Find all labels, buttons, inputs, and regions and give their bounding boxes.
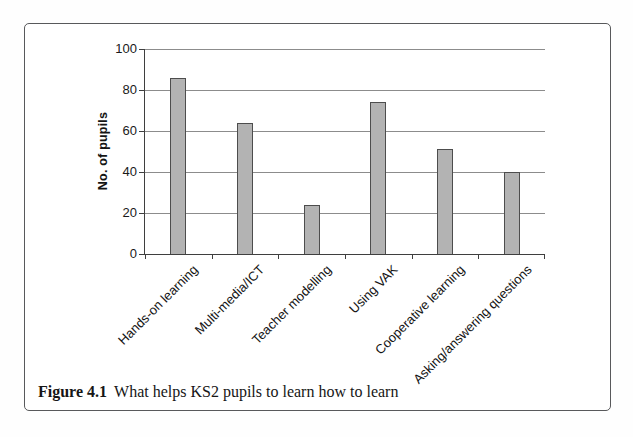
x-axis-tick-mark-4: [412, 255, 413, 259]
plot-area: No. of pupils 020406080100Hands-on learn…: [144, 49, 545, 255]
category-label-multi-media-ict: Multi-media/ICT: [192, 262, 267, 337]
gridline-y-20: [145, 213, 545, 214]
figure-caption-text: What helps KS2 pupils to learn how to le…: [114, 383, 398, 400]
bar-multi-media-ict: [237, 123, 253, 254]
x-axis-tick-mark-1: [212, 255, 213, 259]
gridline-y-40: [145, 172, 545, 173]
bar-using-vak: [370, 102, 386, 254]
y-axis-tick-mark-20: [139, 213, 144, 214]
y-axis-tick-mark-100: [139, 49, 144, 50]
page: No. of pupils 020406080100Hands-on learn…: [0, 0, 633, 437]
category-label-using-vak: Using VAK: [347, 262, 401, 316]
x-axis-tick-mark-0: [145, 255, 146, 259]
gridline-y-100: [145, 49, 545, 50]
x-axis-tick-mark-6: [544, 255, 545, 259]
category-label-hands-on-learning: Hands-on learning: [115, 262, 201, 348]
category-label-asking-answering-questions: Asking/answering questions: [410, 262, 535, 387]
y-axis-tick-label-80: 80: [99, 82, 137, 98]
y-axis-tick-label-100: 100: [99, 41, 137, 57]
y-axis-tick-label-40: 40: [99, 164, 137, 180]
y-axis-tick-label-20: 20: [99, 205, 137, 221]
figure-caption-number: Figure 4.1: [38, 383, 107, 400]
bar-asking-answering-questions: [504, 172, 520, 254]
y-axis-tick-mark-80: [139, 90, 144, 91]
gridline-y-80: [145, 90, 545, 91]
y-axis-tick-mark-60: [139, 131, 144, 132]
gridline-y-60: [145, 131, 545, 132]
bar-teacher-modelling: [304, 205, 320, 254]
y-axis-tick-mark-0: [139, 254, 144, 255]
figure-caption: Figure 4.1What helps KS2 pupils to learn…: [38, 383, 398, 401]
figure-frame: No. of pupils 020406080100Hands-on learn…: [24, 23, 611, 411]
bar-cooperative-learning: [437, 149, 453, 254]
bar-hands-on-learning: [170, 78, 186, 254]
y-axis-tick-label-60: 60: [99, 123, 137, 139]
y-axis-tick-label-0: 0: [99, 246, 137, 262]
y-axis-tick-mark-40: [139, 172, 144, 173]
x-axis-tick-mark-5: [478, 255, 479, 259]
x-axis-tick-mark-3: [345, 255, 346, 259]
x-axis-tick-mark-2: [278, 255, 279, 259]
